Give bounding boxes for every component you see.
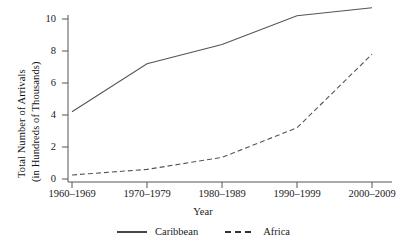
legend-item-africa: Africa	[224, 226, 290, 237]
legend-label-caribbean: Caribbean	[155, 226, 198, 237]
legend-item-caribbean: Caribbean	[116, 226, 198, 237]
x-tick-label-3: 1990–1999	[273, 188, 320, 199]
x-tick-label-4: 2000–2009	[348, 188, 395, 199]
series-line-africa	[72, 54, 372, 175]
series-line-caribbean	[72, 8, 372, 112]
legend-key-solid-line-icon	[116, 227, 148, 237]
x-tick-label-0: 1960–1969	[48, 188, 95, 199]
legend-key-dashed-line-icon	[224, 227, 256, 237]
legend-label-africa: Africa	[263, 226, 290, 237]
x-tick-label-1: 1970–1979	[123, 188, 170, 199]
line-chart-figure: Total Number of Arrivals (in Hundreds of…	[0, 0, 406, 249]
x-axis-title: Year	[0, 206, 406, 217]
chart-legend: Caribbean Africa	[0, 226, 406, 237]
x-tick-label-2: 1980–1989	[198, 188, 245, 199]
y-axis-ticks	[62, 19, 68, 179]
